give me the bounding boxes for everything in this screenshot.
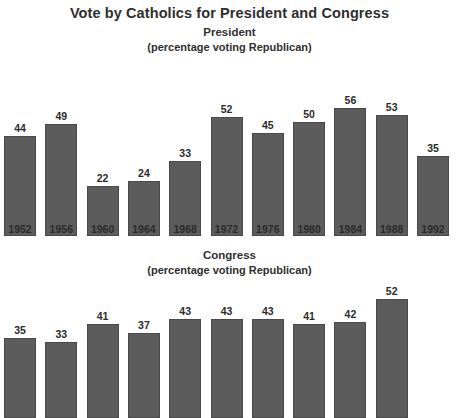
bar-column: 24 [128,82,160,236]
bar-column: 41 [293,263,325,418]
president-chart-title: President [0,26,459,38]
bar-value-label: 49 [39,111,83,122]
bar-value-label: 41 [81,311,125,322]
bar-value-label: 43 [205,306,249,317]
bar-value-label: 41 [287,311,331,322]
bar-column: 35 [4,263,36,418]
bar-value-label: 37 [122,320,166,331]
x-tick-label-1988: 1988 [372,223,412,235]
bar-1964 [128,333,160,418]
x-tick-label-1960: 1960 [83,223,123,235]
bar-value-label: 56 [328,95,372,106]
congress-plot-area: 35334137434343414252 [0,281,459,418]
bar-column: 56 [334,82,366,236]
bar-column: 43 [169,263,201,418]
bar-column: 53 [376,82,408,236]
bar-1988 [376,299,408,418]
x-tick-label-1980: 1980 [289,223,329,235]
bar-1984 [334,108,366,236]
bar-value-label: 52 [205,104,249,115]
bar-column: 43 [211,263,243,418]
bar-column: 52 [211,82,243,236]
bar-column: 49 [45,82,77,236]
bar-1984 [334,322,366,418]
bar-column: 35 [417,82,449,236]
congress-chart-title: Congress [0,249,459,261]
president-bar-chart: 4449222433524550565335 [0,58,459,236]
figure-vote-by-catholics: Vote by Catholics for President and Cong… [0,0,459,418]
bar-column: 50 [293,82,325,236]
bar-value-label: 44 [0,123,42,134]
bar-1980 [293,122,325,236]
bar-value-label: 53 [370,102,414,113]
bar-1968 [169,319,201,418]
president-x-axis-labels: 1952195619601964196819721976198019841988… [0,223,459,237]
bar-value-label: 50 [287,109,331,120]
bar-column: 33 [169,82,201,236]
bar-1988 [376,115,408,236]
bar-1952 [4,338,36,418]
bar-value-label: 35 [411,143,455,154]
bar-1972 [211,319,243,418]
bar-value-label: 33 [163,148,207,159]
bar-value-label: 24 [122,168,166,179]
bar-1956 [45,342,77,418]
bar-column: 44 [4,82,36,236]
bar-column: 52 [376,263,408,418]
bar-column: 41 [87,263,119,418]
bar-1956 [45,124,77,236]
bar-column: 42 [334,263,366,418]
bar-1980 [293,324,325,418]
x-tick-label-1968: 1968 [165,223,205,235]
bar-column: 43 [252,263,284,418]
bar-column: 22 [87,82,119,236]
bar-value-label: 45 [246,120,290,131]
bar-value-label: 52 [370,286,414,297]
bar-value-label: 42 [328,309,372,320]
bar-column: 45 [252,82,284,236]
bar-value-label: 33 [39,329,83,340]
bar-1952 [4,136,36,236]
bar-1960 [87,324,119,418]
x-tick-label-1956: 1956 [41,223,81,235]
x-tick-label-1976: 1976 [248,223,288,235]
bar-value-label: 43 [246,306,290,317]
x-tick-label-1992: 1992 [413,223,453,235]
bar-1976 [252,319,284,418]
page-title: Vote by Catholics for President and Cong… [0,5,459,21]
bar-column: 37 [128,263,160,418]
bar-value-label: 22 [81,173,125,184]
x-tick-label-1984: 1984 [330,223,370,235]
bar-value-label: 35 [0,325,42,336]
x-tick-label-1972: 1972 [207,223,247,235]
bar-column: 33 [45,263,77,418]
x-tick-label-1952: 1952 [0,223,40,235]
x-tick-label-1964: 1964 [124,223,164,235]
bar-1976 [252,133,284,236]
congress-bar-chart: 35334137434343414252 [0,281,459,418]
president-plot-area: 4449222433524550565335 [0,58,459,236]
bar-1972 [211,117,243,236]
bar-value-label: 43 [163,306,207,317]
president-chart-subtitle: (percentage voting Republican) [0,41,459,53]
